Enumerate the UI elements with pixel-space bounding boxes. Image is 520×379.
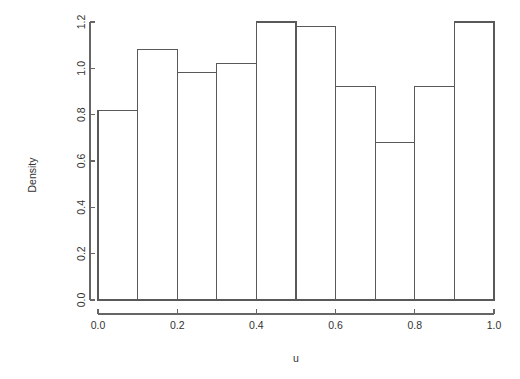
x-axis-tick-label: 1.0: [487, 319, 502, 331]
x-axis-tick-label: 0.8: [407, 319, 422, 331]
histogram-bar: [138, 50, 178, 300]
y-axis-tick-label: 0.0: [75, 293, 87, 308]
x-axis-tick-label: 0.4: [249, 319, 264, 331]
y-axis-tick-label: 0.2: [75, 246, 87, 261]
histogram-plot: 0.00.20.40.60.81.01.2 0.00.20.40.60.81.0…: [0, 0, 520, 379]
histogram-bar: [454, 22, 494, 300]
y-axis-tick-label: 0.6: [75, 154, 87, 169]
x-axis-title: u: [293, 352, 299, 364]
x-axis-tick-label: 0.0: [91, 319, 106, 331]
histogram-bar: [98, 110, 138, 300]
x-axis-tick-label: 0.6: [328, 319, 343, 331]
y-axis-tick-label: 0.4: [75, 200, 87, 215]
y-axis-title: Density: [26, 157, 38, 193]
histogram-bar: [336, 87, 376, 300]
histogram-bar: [177, 73, 217, 300]
histogram-bar: [296, 27, 336, 300]
histogram-bar: [256, 22, 296, 300]
histogram-bar: [415, 87, 455, 300]
y-axis-tick-label: 0.8: [75, 107, 87, 122]
y-axis-tick-label: 1.0: [75, 61, 87, 76]
x-axis-tick-label: 0.2: [170, 319, 185, 331]
histogram-bar: [375, 142, 415, 300]
histogram-bar: [217, 64, 257, 300]
y-axis-tick-label: 1.2: [75, 15, 87, 30]
plot-canvas: 0.00.20.40.60.81.01.2 0.00.20.40.60.81.0…: [0, 0, 520, 379]
